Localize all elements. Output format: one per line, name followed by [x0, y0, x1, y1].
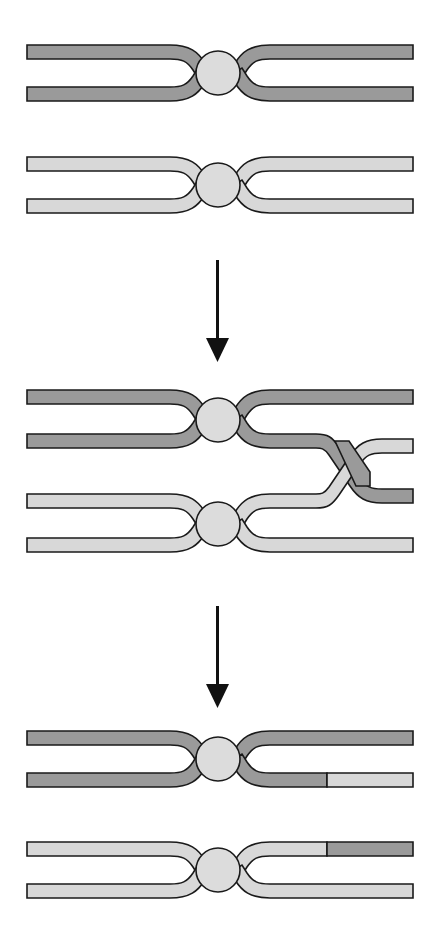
strand3-dark-upper-left	[27, 731, 210, 764]
junction-node-dark-1	[196, 51, 240, 95]
strand3-dark-upper-right	[230, 731, 413, 764]
figure-canvas	[0, 0, 440, 937]
strand3-light-upper-right-exchanged	[327, 842, 413, 856]
strand2-light-lower-right	[230, 519, 413, 552]
strand3-light-lower-left	[27, 865, 210, 898]
strand-dark-lower-left	[27, 68, 210, 101]
junction-node-dark-2	[196, 398, 240, 442]
panel1-duplex-dark	[27, 45, 413, 101]
junction-node-light-2	[196, 502, 240, 546]
strand-dark-lower-right	[230, 68, 413, 101]
strand-dark-upper-right	[230, 45, 413, 78]
strand2-dark-upper-left	[27, 390, 210, 423]
strand3-light-lower-right	[230, 865, 413, 898]
strand2-light-lower-left	[27, 519, 210, 552]
arrow-2	[206, 606, 229, 708]
strand2-light-crossing-strand	[230, 439, 413, 527]
panel-2	[27, 390, 413, 552]
dna-recombination-figure	[0, 0, 440, 937]
strand-light-lower-left	[27, 180, 210, 213]
arrow-2-head	[206, 684, 229, 708]
strand3-dark-lower-right-exchanged	[327, 773, 413, 787]
panel2-duplex-dark	[27, 390, 413, 503]
panel-1	[27, 45, 413, 213]
strand2-dark-lower-left	[27, 415, 210, 448]
strand3-light-upper-left	[27, 842, 210, 875]
arrow-2-shaft	[216, 606, 219, 688]
panel-3	[27, 731, 413, 898]
arrow-1-shaft	[216, 260, 219, 342]
strand-light-upper-right	[230, 157, 413, 190]
arrow-1-head	[206, 338, 229, 362]
strand2-dark-crossing-strand	[230, 415, 413, 503]
panel3-duplex-light	[27, 842, 413, 898]
strand2-light-upper-left	[27, 494, 210, 527]
strand-light-upper-left	[27, 157, 210, 190]
strand-dark-upper-left	[27, 45, 210, 78]
panel3-duplex-dark	[27, 731, 413, 787]
strand-light-lower-right	[230, 180, 413, 213]
junction-node-dark-3	[196, 737, 240, 781]
arrow-1	[206, 260, 229, 362]
junction-node-light-1	[196, 163, 240, 207]
strand3-dark-lower-right-native	[230, 754, 327, 787]
strand3-dark-lower-left	[27, 754, 210, 787]
panel1-duplex-light	[27, 157, 413, 213]
strand2-dark-upper-right	[230, 390, 413, 423]
junction-node-light-3	[196, 848, 240, 892]
